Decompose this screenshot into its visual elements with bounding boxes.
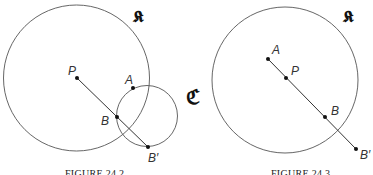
circle-k: [212, 7, 358, 153]
label-p: P: [291, 64, 299, 78]
label-a: A: [124, 73, 133, 87]
point-b-prime: [146, 145, 150, 149]
point-b: [323, 115, 327, 119]
figure-caption: FIGURE 24.2: [65, 168, 124, 175]
segment-p-b-prime: [77, 78, 148, 147]
point-b: [115, 115, 119, 119]
label-b-prime: B′: [148, 151, 159, 165]
label-b: B: [331, 104, 339, 118]
inversion-diagrams: P A B B′ 𝕶 ℭ FIGURE 24.2 A P B B′ 𝕶 FIGU…: [0, 0, 373, 175]
figure-24-2: P A B B′ 𝕶 ℭ FIGURE 24.2: [4, 5, 201, 175]
label-circle-k: 𝕶: [342, 8, 354, 26]
point-b-prime: [354, 147, 358, 151]
label-p: P: [68, 64, 76, 78]
point-a: [266, 57, 270, 61]
label-circle-c: ℭ: [186, 85, 200, 109]
label-circle-k: 𝕶: [132, 8, 144, 26]
point-p: [284, 76, 288, 80]
figure-24-3: A P B B′ 𝕶 FIGURE 24.3: [212, 7, 371, 175]
label-b-prime: B′: [360, 148, 371, 162]
label-b: B: [101, 114, 109, 128]
figure-caption: FIGURE 24.3: [271, 168, 330, 175]
segment-a-b-prime: [268, 59, 356, 149]
circle-c: [117, 86, 178, 147]
label-a: A: [271, 43, 280, 57]
